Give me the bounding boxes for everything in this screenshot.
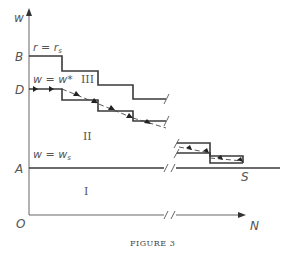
figure-caption: FIGURE 3 — [130, 239, 175, 248]
y-axis-arrow-icon — [26, 8, 32, 16]
arrow-icon — [33, 86, 38, 92]
y-axis-label: w — [14, 11, 24, 25]
ws-label: w = ws — [33, 148, 71, 162]
x-axis-arrow-icon — [238, 212, 246, 218]
x-axis-label: N — [250, 219, 259, 233]
axis-break-icon — [164, 211, 168, 219]
tick-label-a: A — [14, 162, 23, 176]
figure-diagram: w N O B D A r = rs w = w* w = ws III II … — [0, 0, 297, 258]
point-s-label: S — [241, 170, 249, 184]
arrow-icon — [126, 113, 133, 118]
region-iii-label: III — [81, 73, 94, 86]
arrow-icon — [49, 86, 54, 92]
tick-label-b: B — [15, 50, 23, 64]
tick-label-d: D — [15, 83, 24, 97]
arrow-icon — [237, 157, 243, 162]
axis-break-icon — [171, 211, 175, 219]
region-i-label: I — [84, 185, 88, 198]
arrow-icon — [108, 105, 115, 110]
r-equals-rs-label: r = rs — [33, 41, 62, 55]
region-ii-label: II — [83, 130, 92, 143]
w-star-staircase — [29, 89, 166, 121]
break-icon — [171, 164, 175, 172]
origin-label: O — [16, 217, 25, 231]
break-icon — [164, 164, 168, 172]
w-star-label: w = w* — [33, 73, 73, 86]
